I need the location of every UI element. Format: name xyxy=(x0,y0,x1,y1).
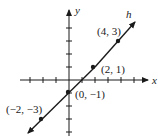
point-label-2-1: (2, 1) xyxy=(101,63,125,76)
point-neg2-neg3 xyxy=(39,117,43,121)
point-0-neg1 xyxy=(66,90,70,94)
x-axis-label: x xyxy=(151,74,157,86)
point-4-3 xyxy=(116,39,120,43)
point-2-1 xyxy=(91,65,95,69)
coordinate-plane: y x h (4, 3) (2, 1) (0, −1) (−2, −3) xyxy=(0,0,158,138)
point-label-4-3: (4, 3) xyxy=(97,25,121,38)
point-label-neg2-neg3: (−2, −3) xyxy=(6,103,43,116)
line-h-lower xyxy=(28,67,95,133)
point-label-0-neg1: (0, −1) xyxy=(75,88,105,101)
line-h-label: h xyxy=(126,8,132,20)
y-axis-label: y xyxy=(74,4,80,16)
